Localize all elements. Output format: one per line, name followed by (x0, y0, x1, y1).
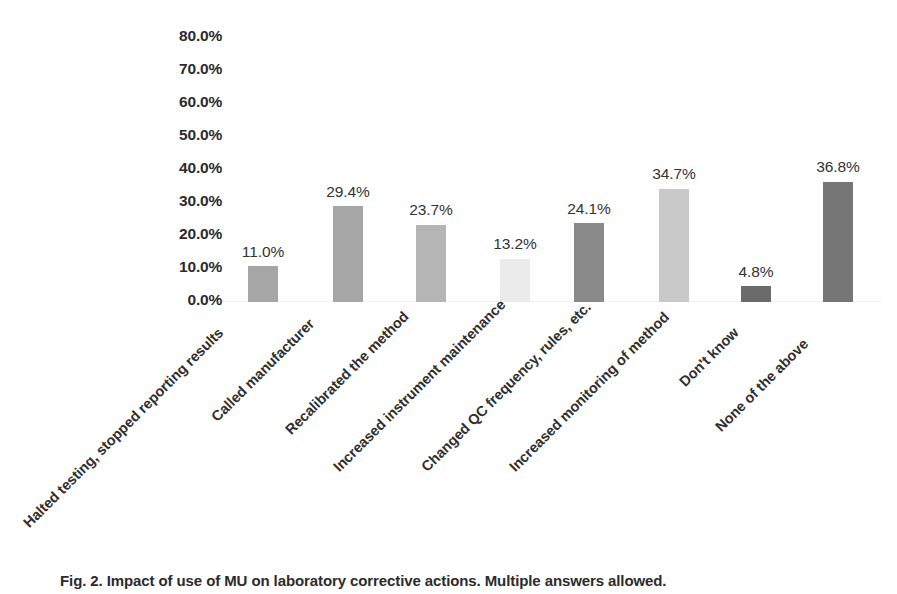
y-axis: 80.0% 70.0% 60.0% 50.0% 40.0% 30.0% 20.0… (130, 28, 222, 312)
bar-halted-testing[interactable] (248, 266, 278, 302)
x-axis-label-increased-instrument-maintenance: Increased instrument maintenance (331, 297, 508, 474)
x-axis-label-none-of-the-above: None of the above (713, 336, 811, 434)
y-axis-tick-label: 40.0% (130, 160, 222, 176)
bar-none-of-the-above[interactable] (823, 182, 853, 302)
y-axis-tick-label: 70.0% (130, 61, 222, 77)
bar-slot: 24.1% (548, 36, 630, 302)
bar-changed-qc-frequency[interactable] (574, 223, 604, 302)
x-axis-category-labels: Halted testing, stopped reporting result… (0, 302, 897, 552)
y-axis-tick-label: 50.0% (130, 127, 222, 143)
bar-slot: 4.8% (715, 36, 797, 302)
bar-slot: 34.7% (633, 36, 715, 302)
x-axis-label-dont-know: Don't know (677, 325, 741, 389)
bar-increased-instrument-maintenance[interactable] (500, 259, 530, 302)
x-axis-label-changed-qc-frequency: Changed QC frequency, rules, etc. (419, 300, 594, 475)
bar-value-label: 23.7% (409, 202, 452, 218)
bar-slot: 13.2% (474, 36, 556, 302)
bar-value-label: 34.7% (652, 166, 695, 182)
bar-value-label: 36.8% (816, 159, 859, 175)
bar-slot: 23.7% (390, 36, 472, 302)
bar-dont-know[interactable] (741, 286, 771, 302)
y-axis-tick-label: 10.0% (130, 259, 222, 275)
y-axis-tick-label: 80.0% (130, 28, 222, 44)
y-axis-tick-label: 60.0% (130, 94, 222, 110)
bar-value-label: 24.1% (567, 201, 610, 217)
bar-called-manufacturer[interactable] (333, 206, 363, 302)
x-axis-label-increased-monitoring-of-method: Increased monitoring of method (507, 310, 672, 475)
plot-area: 11.0% 29.4% 23.7% 13.2% 24.1% 34.7% 4.8% (222, 36, 882, 302)
bar-value-label: 4.8% (739, 264, 774, 280)
bar-slot: 36.8% (797, 36, 879, 302)
figure-caption: Fig. 2. Impact of use of MU on laborator… (60, 572, 890, 594)
bar-value-label: 11.0% (242, 244, 284, 260)
y-axis-tick-label: 20.0% (130, 226, 222, 242)
figure-container: 80.0% 70.0% 60.0% 50.0% 40.0% 30.0% 20.0… (0, 0, 897, 594)
bar-increased-monitoring-of-method[interactable] (659, 189, 689, 302)
bar-recalibrated-method[interactable] (416, 225, 446, 302)
bar-slot: 11.0% (222, 36, 304, 302)
bar-value-label: 13.2% (493, 236, 536, 252)
y-axis-tick-label: 30.0% (130, 193, 222, 209)
bar-value-label: 29.4% (326, 184, 369, 200)
bar-slot: 29.4% (307, 36, 389, 302)
x-axis-label-halted-testing: Halted testing, stopped reporting result… (21, 325, 226, 530)
